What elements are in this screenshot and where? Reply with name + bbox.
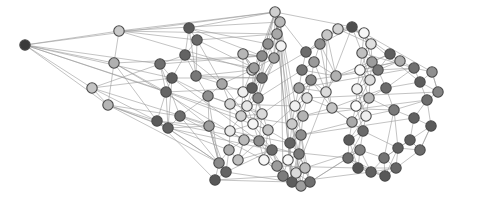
graph-node[interactable] xyxy=(426,121,436,131)
graph-node[interactable] xyxy=(247,83,257,93)
graph-node[interactable] xyxy=(359,28,369,38)
graph-node[interactable] xyxy=(114,26,124,36)
graph-node[interactable] xyxy=(192,35,202,45)
graph-node[interactable] xyxy=(395,56,405,66)
graph-node[interactable] xyxy=(257,51,267,61)
graph-node[interactable] xyxy=(175,111,185,121)
graph-node[interactable] xyxy=(253,93,263,103)
graph-node[interactable] xyxy=(322,30,332,40)
graph-node[interactable] xyxy=(366,39,376,49)
graph-node[interactable] xyxy=(405,135,415,145)
graph-node[interactable] xyxy=(224,145,234,155)
graph-node[interactable] xyxy=(161,87,171,97)
graph-node[interactable] xyxy=(385,49,395,59)
graph-node[interactable] xyxy=(415,77,425,87)
graph-node[interactable] xyxy=(184,23,194,33)
graph-node[interactable] xyxy=(315,39,325,49)
graph-node[interactable] xyxy=(321,87,331,97)
graph-node[interactable] xyxy=(351,101,361,111)
graph-node[interactable] xyxy=(294,83,304,93)
graph-node[interactable] xyxy=(422,95,432,105)
graph-node[interactable] xyxy=(221,167,231,177)
graph-node[interactable] xyxy=(263,125,273,135)
graph-node[interactable] xyxy=(355,65,365,75)
graph-node[interactable] xyxy=(389,105,399,115)
graph-node[interactable] xyxy=(109,58,119,68)
graph-node[interactable] xyxy=(365,75,375,85)
graph-node[interactable] xyxy=(155,59,165,69)
graph-node[interactable] xyxy=(249,63,259,73)
graph-node[interactable] xyxy=(343,153,353,163)
graph-node[interactable] xyxy=(272,161,282,171)
graph-node[interactable] xyxy=(272,29,282,39)
graph-node[interactable] xyxy=(327,103,337,113)
graph-node[interactable] xyxy=(353,163,363,173)
graph-node[interactable] xyxy=(301,47,311,57)
graph-node[interactable] xyxy=(238,49,248,59)
graph-node[interactable] xyxy=(103,100,113,110)
graph-node[interactable] xyxy=(210,175,220,185)
graph-node[interactable] xyxy=(248,119,258,129)
graph-node[interactable] xyxy=(259,155,269,165)
graph-node[interactable] xyxy=(276,41,286,51)
graph-node[interactable] xyxy=(427,67,437,77)
graph-node[interactable] xyxy=(167,73,177,83)
graph-node[interactable] xyxy=(163,123,173,133)
graph-node[interactable] xyxy=(296,130,306,140)
graph-node[interactable] xyxy=(297,65,307,75)
graph-node[interactable] xyxy=(267,145,277,155)
graph-node[interactable] xyxy=(305,177,315,187)
graph-node[interactable] xyxy=(204,121,214,131)
graph-node[interactable] xyxy=(275,17,285,27)
graph-node[interactable] xyxy=(225,99,235,109)
graph-node[interactable] xyxy=(381,83,391,93)
graph-node[interactable] xyxy=(263,39,273,49)
graph-node[interactable] xyxy=(257,73,267,83)
graph-node[interactable] xyxy=(379,153,389,163)
graph-node[interactable] xyxy=(287,119,297,129)
graph-node[interactable] xyxy=(285,138,295,148)
graph-node[interactable] xyxy=(180,50,190,60)
graph-node[interactable] xyxy=(225,126,235,136)
graph-node[interactable] xyxy=(393,143,403,153)
graph-node[interactable] xyxy=(333,24,343,34)
graph-node[interactable] xyxy=(409,63,419,73)
graph-node[interactable] xyxy=(306,75,316,85)
graph-node[interactable] xyxy=(298,111,308,121)
graph-node[interactable] xyxy=(152,116,162,126)
graph-node[interactable] xyxy=(373,65,383,75)
graph-node[interactable] xyxy=(217,79,227,89)
graph-node[interactable] xyxy=(214,158,224,168)
graph-node[interactable] xyxy=(20,40,30,50)
graph-node[interactable] xyxy=(366,167,376,177)
graph-node[interactable] xyxy=(309,57,319,67)
graph-node[interactable] xyxy=(290,101,300,111)
graph-node[interactable] xyxy=(254,136,264,146)
graph-node[interactable] xyxy=(331,71,341,81)
graph-node[interactable] xyxy=(294,149,304,159)
graph-node[interactable] xyxy=(203,91,213,101)
graph-node[interactable] xyxy=(233,155,243,165)
graph-node[interactable] xyxy=(236,111,246,121)
graph-node[interactable] xyxy=(358,126,368,136)
graph-node[interactable] xyxy=(361,111,371,121)
graph-node[interactable] xyxy=(347,22,357,32)
graph-node[interactable] xyxy=(409,113,419,123)
graph-node[interactable] xyxy=(415,145,425,155)
graph-node[interactable] xyxy=(242,101,252,111)
graph-node[interactable] xyxy=(191,71,201,81)
graph-node[interactable] xyxy=(347,117,357,127)
graph-node[interactable] xyxy=(352,84,362,94)
graph-node[interactable] xyxy=(87,83,97,93)
graph-node[interactable] xyxy=(391,163,401,173)
graph-node[interactable] xyxy=(380,171,390,181)
graph-node[interactable] xyxy=(239,135,249,145)
graph-node[interactable] xyxy=(357,48,367,58)
graph-node[interactable] xyxy=(283,155,293,165)
graph-node[interactable] xyxy=(257,109,267,119)
graph-node[interactable] xyxy=(278,171,288,181)
graph-node[interactable] xyxy=(355,145,365,155)
graph-node[interactable] xyxy=(269,53,279,63)
graph-node[interactable] xyxy=(302,93,312,103)
graph-node[interactable] xyxy=(433,87,443,97)
